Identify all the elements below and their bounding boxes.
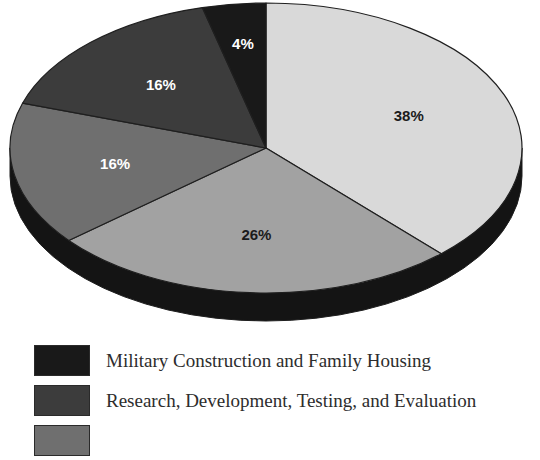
pie-slice-label-2: 16%	[100, 155, 130, 172]
legend-swatch-2	[34, 425, 90, 456]
pie-chart-svg: 38%26%16%16%4%	[0, 0, 540, 335]
pie-top-face-group	[10, 3, 522, 293]
legend-item-0[interactable]: Military Construction and Family Housing	[0, 340, 540, 380]
pie-slice-label-0: 38%	[394, 107, 424, 124]
pie-slice-label-1: 26%	[241, 226, 271, 243]
pie-slice-label-3: 16%	[146, 76, 176, 93]
legend-item-1[interactable]: Research, Development, Testing, and Eval…	[0, 380, 540, 420]
pie-chart-plot: 38%26%16%16%4%	[0, 0, 540, 335]
legend-swatch-1	[34, 385, 90, 416]
legend-item-2[interactable]	[0, 420, 540, 460]
pie-slice-label-4: 4%	[232, 35, 254, 52]
legend: Military Construction and Family Housing…	[0, 336, 540, 426]
legend-label-1: Research, Development, Testing, and Eval…	[106, 385, 476, 416]
legend-swatch-0	[34, 345, 90, 376]
legend-label-0: Military Construction and Family Housing	[106, 345, 431, 376]
